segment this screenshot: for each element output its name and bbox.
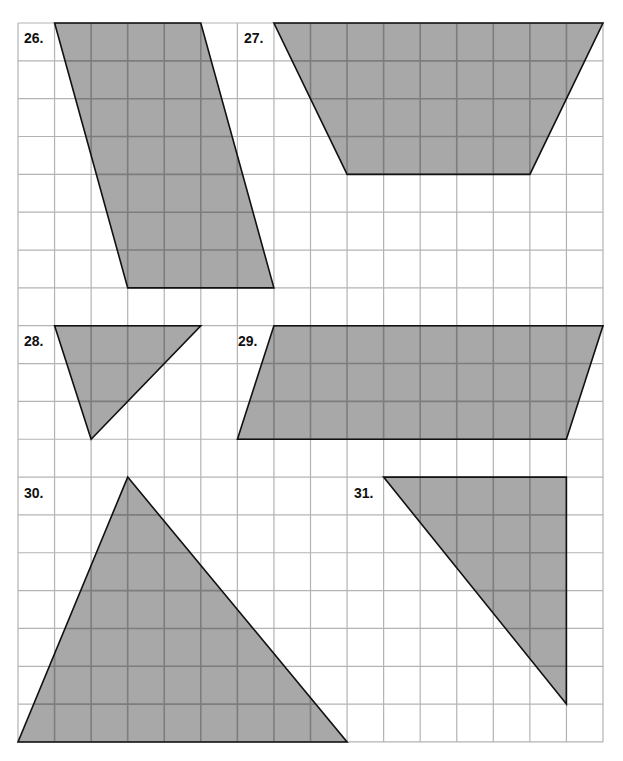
figure-label-28: 28. [24,333,43,349]
figure-label-29: 29. [238,333,257,349]
figure-label-27: 27. [244,30,263,46]
figure-label-31: 31. [354,485,373,501]
figure-label-26: 26. [24,30,43,46]
grid-figures-diagram: 26.27.28.29.30.31. [0,0,623,761]
figure-label-30: 30. [24,485,43,501]
figure-30-triangle-fill [18,477,347,742]
